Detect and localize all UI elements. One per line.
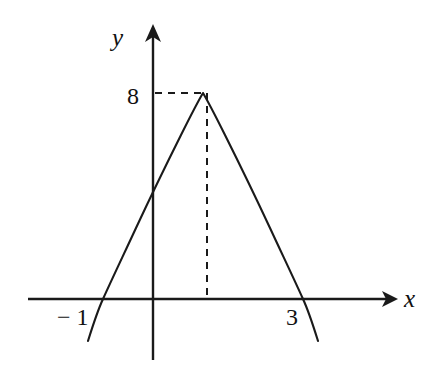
parabola-figure: y x 8 − 1 3 <box>0 0 438 385</box>
plot-canvas: y x 8 − 1 3 <box>0 0 438 385</box>
x-tick-label-negative-one: − 1 <box>57 304 89 330</box>
x-tick-label-three: 3 <box>286 304 298 330</box>
x-axis-label: x <box>403 285 415 312</box>
y-tick-label-8: 8 <box>127 83 139 109</box>
y-axis-label: y <box>109 24 124 51</box>
parabola-curve <box>88 93 318 341</box>
